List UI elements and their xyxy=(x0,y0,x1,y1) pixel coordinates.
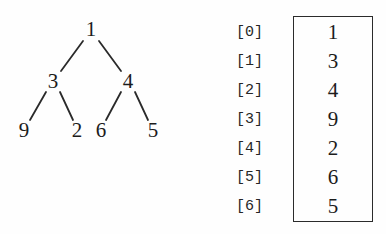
array-index-label: [6] xyxy=(236,192,282,221)
array-index-label: [4] xyxy=(236,134,282,163)
array-index-label: [2] xyxy=(236,76,282,105)
binary-tree-diagram: 1349265 xyxy=(0,0,200,234)
tree-edge xyxy=(61,41,83,71)
tree-node: 4 xyxy=(116,71,140,92)
tree-edge xyxy=(99,41,121,71)
tree-node: 3 xyxy=(41,71,65,92)
array-index-label: [5] xyxy=(236,163,282,192)
tree-node: 5 xyxy=(141,120,165,141)
array-index-label: [3] xyxy=(236,105,282,134)
tree-edge xyxy=(30,92,46,120)
tree-edge xyxy=(60,92,73,120)
tree-edge xyxy=(135,92,148,120)
array-box-outline xyxy=(293,16,373,222)
array-representation: [0]1[1]3[2]4[3]9[4]2[5]6[6]5 xyxy=(228,0,386,234)
tree-node: 9 xyxy=(12,120,36,141)
tree-edge xyxy=(106,92,121,120)
tree-node: 2 xyxy=(65,120,89,141)
figure-container: 1349265 [0]1[1]3[2]4[3]9[4]2[5]6[6]5 xyxy=(0,0,386,234)
tree-node: 1 xyxy=(79,19,103,40)
tree-node: 6 xyxy=(89,120,113,141)
array-index-label: [1] xyxy=(236,47,282,76)
array-index-label: [0] xyxy=(236,18,282,47)
